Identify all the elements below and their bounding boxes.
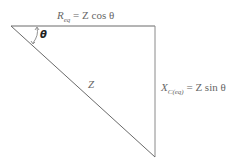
theta-label: θ [40, 29, 47, 40]
resistance-label: Req = Z cos θ [57, 10, 114, 24]
impedance-hypotenuse [11, 26, 155, 157]
reactance-label: XC(eq) = Z sin θ [161, 82, 226, 96]
impedance-label: Z [88, 79, 94, 90]
angle-arc [33, 28, 38, 43]
